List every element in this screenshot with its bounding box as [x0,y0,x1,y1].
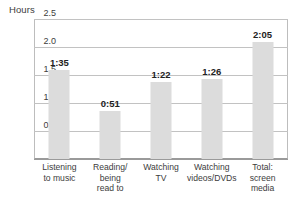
bar-slot: 1:26 [186,19,237,159]
category-label-line: TV [136,173,187,184]
category-label-line: videos/DVDs [186,173,237,184]
bar-value-label: 2:05 [253,29,272,40]
bar-chart: Hours 00.51.01.52.02.5 1:350:511:221:262… [0,0,294,209]
bar-value-label: 1:26 [202,66,221,77]
bar-slot: 1:35 [34,19,85,159]
x-axis-category-label: Reading/beingread to [85,162,136,194]
x-axis-category-label: Watchingvideos/DVDs [186,162,237,183]
bar [201,79,222,159]
category-label-line: Listening [34,162,85,173]
category-label-line: screen [237,173,288,184]
bars-group: 1:350:511:221:262:05 [34,19,288,159]
category-label-line: read to [85,183,136,194]
category-label-line: Watching [186,162,237,173]
bar-slot: 0:51 [85,19,136,159]
category-label-line: Reading/ [85,162,136,173]
bar [150,82,171,159]
y-tick-label: 2.5 [16,8,56,18]
bar-value-label: 1:35 [50,57,69,68]
x-axis-category-label: Listeningto music [34,162,85,183]
bar [49,70,70,159]
category-label-line: being [85,173,136,184]
x-axis-categories-group: Listeningto musicReading/beingread toWat… [34,162,288,208]
category-label-line: to music [34,173,85,184]
bar-value-label: 1:22 [151,69,170,80]
x-axis-category-label: Total:screenmedia [237,162,288,194]
category-label-line: Total: [237,162,288,173]
bar-slot: 2:05 [237,19,288,159]
x-axis-category-label: WatchingTV [136,162,187,183]
category-label-line: media [237,183,288,194]
bar-value-label: 0:51 [101,98,120,109]
category-label-line: Watching [136,162,187,173]
bar [252,42,273,159]
bar [100,111,121,159]
bar-slot: 1:22 [136,19,187,159]
